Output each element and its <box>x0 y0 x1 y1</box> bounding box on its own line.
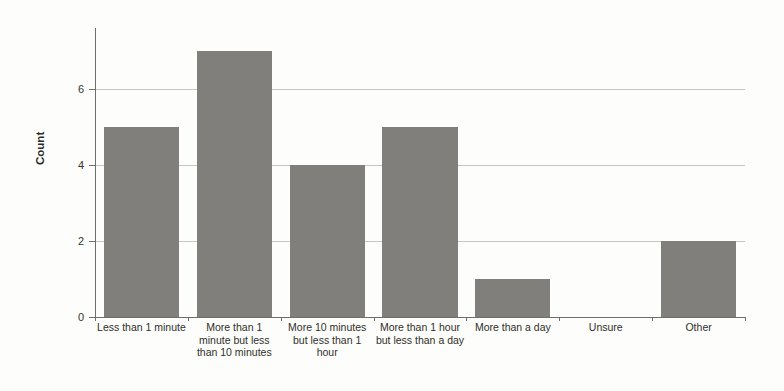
x-tick-label: More 10 minutes but less than 1 hour <box>281 321 374 359</box>
y-tick-label: 4 <box>58 159 84 171</box>
bars-group <box>95 28 745 317</box>
bar <box>382 127 457 317</box>
x-tick-label: More than 1 hour but less than a day <box>374 321 467 359</box>
x-tick-label: More than 1 minute but less than 10 minu… <box>188 321 281 359</box>
bar-slot <box>281 28 374 317</box>
bar-slot <box>188 28 281 317</box>
y-tick-label: 2 <box>58 235 84 247</box>
bar <box>475 279 550 317</box>
bar <box>197 51 272 317</box>
bar-slot <box>374 28 467 317</box>
bar-slot <box>95 28 188 317</box>
y-tick-label: 6 <box>58 83 84 95</box>
bar-slot <box>652 28 745 317</box>
bar <box>661 241 736 317</box>
y-tick-label: 0 <box>58 311 84 323</box>
x-tick-label: More than a day <box>466 321 559 359</box>
x-tick-label: Less than 1 minute <box>95 321 188 359</box>
x-axis-labels-group: Less than 1 minuteMore than 1 minute but… <box>95 321 745 359</box>
x-tick-label: Unsure <box>559 321 652 359</box>
x-tick-label: Other <box>652 321 745 359</box>
y-axis-title: Count <box>34 132 46 165</box>
bar-slot <box>466 28 559 317</box>
bar-chart-figure: 0246 Count Less than 1 minuteMore than 1… <box>0 0 784 391</box>
x-axis-baseline <box>95 317 745 318</box>
bar <box>290 165 365 317</box>
bar <box>104 127 179 317</box>
bar-slot <box>559 28 652 317</box>
x-tick-mark <box>745 317 746 321</box>
